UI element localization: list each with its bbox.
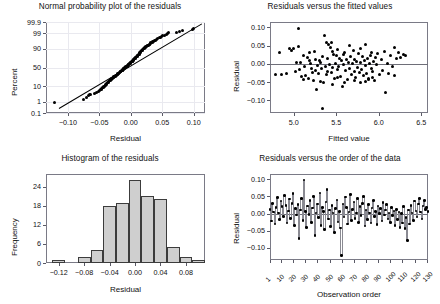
axis-label-residual-npp: Residual (46, 134, 205, 143)
y-tick-label: 50 (33, 63, 41, 72)
data-point (399, 226, 402, 229)
data-point (340, 254, 343, 257)
histogram-bar (141, 196, 154, 263)
data-point (412, 219, 415, 222)
data-point (317, 216, 320, 219)
x-tick-label-rotated: 10 (275, 273, 285, 283)
y-tick-label: 18 (33, 201, 41, 210)
data-point (400, 212, 403, 215)
x-tick-label: 6.0 (374, 118, 384, 127)
data-point (376, 223, 379, 226)
x-tick-label-rotated: 110 (397, 271, 409, 283)
gridline-horizontal (46, 49, 205, 50)
axis-label-observation-order: Observation order (270, 290, 428, 299)
x-tick-label-rotated: 60 (336, 273, 346, 283)
data-point (306, 56, 309, 59)
data-point (368, 212, 371, 215)
x-tick-label: −0.08 (75, 268, 93, 277)
data-point (383, 214, 386, 217)
x-tick-label: −0.10 (59, 118, 77, 127)
y-tick-mark (43, 33, 46, 34)
y-tick-mark (267, 248, 270, 249)
x-tick-label: 0.05 (155, 118, 169, 127)
data-point (373, 79, 376, 82)
data-point (311, 71, 314, 74)
x-tick-mark (402, 260, 403, 263)
data-point (323, 228, 326, 231)
x-tick-label-rotated: 70 (348, 273, 358, 283)
data-point (333, 231, 336, 234)
y-tick-label: −0.10 (247, 243, 265, 252)
data-point (344, 196, 347, 199)
histogram-bar (154, 199, 167, 263)
y-tick-label: 12 (33, 220, 41, 229)
x-tick-mark (281, 260, 282, 263)
panel-title-residuals-vs-order: Residuals versus the order of the data (220, 154, 440, 164)
y-tick-label: −0.05 (247, 78, 265, 87)
x-tick-label-rotated: 120 (409, 270, 422, 283)
connector-segment (325, 202, 326, 230)
data-point (348, 44, 351, 47)
data-point (330, 71, 333, 74)
x-tick-label: 5.5 (331, 118, 341, 127)
y-tick-label: 99.9 (27, 18, 41, 27)
data-point (373, 215, 376, 218)
residual-plots-figure: Normal probability plot of the residuals… (0, 0, 440, 304)
histogram-bar (91, 250, 104, 263)
data-point (310, 67, 313, 70)
data-point (330, 41, 333, 44)
data-point (364, 64, 367, 67)
data-point (383, 50, 386, 53)
data-point (418, 197, 421, 200)
data-point (294, 70, 297, 73)
data-point (349, 193, 352, 196)
x-tick-label: 0.10 (187, 118, 201, 127)
y-tick-label: 99 (33, 29, 41, 38)
data-point (305, 226, 308, 229)
histogram-bar (192, 260, 205, 263)
data-point (295, 61, 298, 64)
panel-title-residuals-vs-fits: Residuals versus the fitted values (220, 2, 440, 12)
data-point (355, 212, 358, 215)
data-point (427, 210, 430, 213)
panel-residuals-vs-fits: Residuals versus the fitted values Resid… (220, 0, 440, 152)
data-point (321, 107, 324, 110)
data-point (294, 207, 297, 210)
data-point (378, 212, 381, 215)
y-tick-label: 0 (37, 259, 41, 268)
y-tick-label: 6 (37, 239, 41, 248)
connector-segment (339, 211, 340, 228)
data-point (308, 213, 311, 216)
panel-residuals-vs-order: Residuals versus the order of the data R… (220, 152, 440, 304)
data-point (410, 204, 413, 207)
connector-segment (275, 207, 276, 224)
connector-segment (417, 204, 418, 217)
y-tick-label: 24 (33, 182, 41, 191)
data-point (406, 239, 409, 242)
axis-label-residual-fits: Residual (232, 61, 241, 92)
x-tick-label-rotated: 30 (299, 273, 309, 283)
data-point (357, 221, 360, 224)
data-point (276, 196, 279, 199)
y-tick-mark (43, 225, 46, 226)
x-tick-label: 0.00 (124, 118, 138, 127)
data-point (358, 71, 361, 74)
connector-segment (315, 213, 316, 236)
y-tick-label: 0.05 (251, 192, 265, 201)
x-tick-mark (342, 260, 343, 263)
data-point (364, 80, 367, 83)
data-point (404, 54, 407, 57)
data-point (331, 83, 334, 86)
data-point (277, 212, 280, 215)
data-point (356, 197, 359, 200)
connector-segment (304, 180, 305, 212)
x-tick-mark (162, 113, 163, 116)
data-point (369, 54, 372, 57)
data-point (287, 210, 290, 213)
connector-segment (371, 208, 372, 223)
x-tick-mark (84, 263, 85, 266)
x-tick-mark (110, 263, 111, 266)
data-point (303, 65, 306, 68)
panel-histogram: Histogram of the residuals Frequency Res… (0, 152, 220, 304)
panel-title-histogram: Histogram of the residuals (0, 154, 220, 164)
